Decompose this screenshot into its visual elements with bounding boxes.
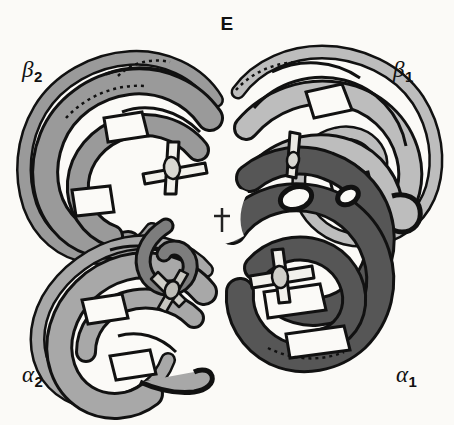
- label-alpha1-greek: α: [396, 362, 408, 387]
- label-alpha1: α1: [396, 363, 417, 389]
- label-beta1-greek: β: [393, 57, 404, 82]
- label-beta2-subscript: 2: [34, 68, 42, 85]
- hemoglobin-ribbon-diagram: [0, 0, 454, 425]
- label-beta1: β1: [393, 58, 413, 84]
- figure-root: E β2 β1 α2 α1 two-fold axis: [0, 0, 454, 425]
- label-beta2: β2: [22, 58, 42, 84]
- label-alpha2-subscript: 2: [35, 373, 43, 390]
- label-alpha1-subscript: 1: [409, 373, 417, 390]
- label-beta2-greek: β: [22, 57, 33, 82]
- label-alpha2: α2: [22, 363, 43, 389]
- label-beta1-subscript: 1: [405, 68, 413, 85]
- label-alpha2-greek: α: [22, 362, 34, 387]
- panel-letter: E: [0, 14, 454, 33]
